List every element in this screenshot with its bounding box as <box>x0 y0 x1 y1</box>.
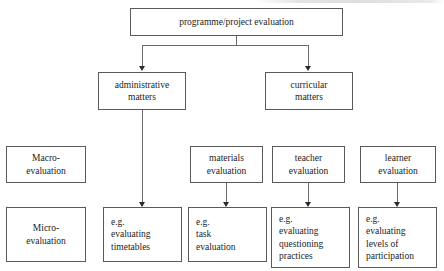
node-label-line: levels of <box>366 238 398 251</box>
node-eg-evaluating-questioning-practices: e.g. evaluating questioning practices <box>271 207 350 268</box>
arrowhead-to-curricular <box>305 66 311 71</box>
node-label-line: e.g. <box>111 216 125 229</box>
node-label-line: evaluation <box>378 165 418 178</box>
node-eg-task-evaluation: e.g. task evaluation <box>188 207 267 262</box>
node-label-line: Macro- <box>32 152 60 165</box>
node-micro-evaluation: Micro- evaluation <box>6 207 86 262</box>
connector-bus-to-administrative <box>142 45 143 67</box>
node-label-line: evaluating <box>366 225 406 238</box>
diagram-canvas: programme/project evaluation administrat… <box>0 0 444 271</box>
node-label-line: teacher <box>295 152 322 165</box>
node-label-line: programme/project evaluation <box>179 16 294 29</box>
connector-root-bus <box>142 45 309 46</box>
node-programme-project-evaluation: programme/project evaluation <box>130 8 343 36</box>
scan-artifact-top-edge <box>0 0 444 3</box>
node-label-line: task <box>196 228 211 241</box>
node-curricular-matters: curricular matters <box>265 72 353 110</box>
node-label-line: Micro- <box>33 222 59 235</box>
node-label-line: e.g. <box>196 216 210 229</box>
node-eg-evaluating-levels-of-participation: e.g. evaluating levels of participation <box>358 207 437 268</box>
node-materials-evaluation: materials evaluation <box>190 146 263 183</box>
node-label-line: evaluation <box>289 165 329 178</box>
node-label-line: e.g. <box>279 213 293 226</box>
node-label-line: matters <box>128 91 156 104</box>
node-eg-evaluating-timetables: e.g. evaluating timetables <box>103 207 182 262</box>
node-label-line: evaluation <box>26 235 66 248</box>
node-label-line: materials <box>209 152 244 165</box>
node-label-line: administrative <box>115 79 169 92</box>
node-label-line: evaluation <box>196 241 236 254</box>
node-label-line: evaluation <box>207 165 247 178</box>
node-macro-evaluation: Macro- evaluation <box>6 146 86 183</box>
arrowhead-to-administrative <box>139 66 145 71</box>
node-label-line: participation <box>366 250 414 263</box>
node-label-line: learner <box>385 152 411 165</box>
node-label-line: evaluation <box>26 165 66 178</box>
node-teacher-evaluation: teacher evaluation <box>272 146 345 183</box>
node-label-line: timetables <box>111 241 150 254</box>
node-label-line: questioning <box>279 238 323 251</box>
node-label-line: evaluating <box>111 228 151 241</box>
connector-bus-to-curricular <box>308 45 309 67</box>
node-label-line: e.g. <box>366 213 380 226</box>
node-label-line: practices <box>279 250 313 263</box>
connector-administrative-to-eg-timetables <box>142 110 143 206</box>
node-learner-evaluation: learner evaluation <box>360 146 436 183</box>
node-label-line: matters <box>295 91 323 104</box>
node-administrative-matters: administrative matters <box>98 72 186 110</box>
node-label-line: curricular <box>291 79 328 92</box>
node-label-line: evaluating <box>279 225 319 238</box>
